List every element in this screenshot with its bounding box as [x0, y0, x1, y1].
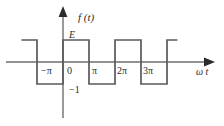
square-wave-figure: f (t) E −1 0 −π π 2π 3π ω t [0, 0, 224, 126]
waveform-plot [0, 0, 224, 126]
amplitude-high-label: E [69, 30, 75, 40]
vertical-axis-arrow-icon [59, 6, 68, 17]
origin-label: 0 [67, 66, 72, 76]
x-tick-label-neg-pi: −π [41, 66, 52, 76]
x-tick-label-2pi: 2π [117, 66, 127, 76]
horizontal-axis-label: ω t [196, 67, 208, 77]
x-tick-label-pi: π [92, 66, 97, 76]
x-tick-label-3pi: 3π [143, 66, 153, 76]
amplitude-low-label: −1 [69, 85, 80, 95]
vertical-axis-label: f (t) [78, 12, 94, 23]
